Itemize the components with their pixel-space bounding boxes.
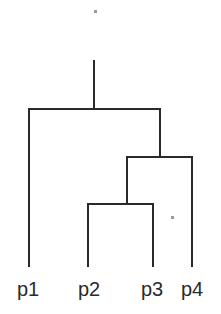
leaf-label-p2: p2 — [78, 279, 100, 299]
dendrogram-branches — [29, 61, 192, 266]
leaf-label-p4: p4 — [181, 279, 203, 299]
speck-dot — [171, 216, 174, 219]
leaf-label-p1: p1 — [17, 279, 39, 299]
dendrogram — [0, 0, 221, 314]
leaf-label-p3: p3 — [141, 279, 163, 299]
speck-dot — [94, 10, 97, 13]
